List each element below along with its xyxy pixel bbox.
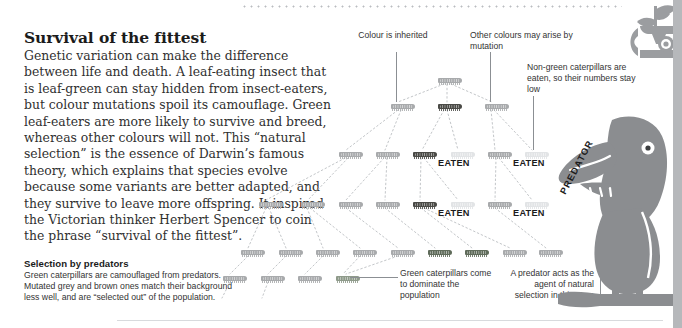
annotation-green-dominate: Green caterpillars come to dominate the … (400, 268, 492, 300)
caterpillar-g3-2 (375, 152, 401, 159)
bottom-divider (117, 320, 663, 321)
caterpillar-g1-1 (437, 78, 463, 85)
caterpillar-g4-5 (412, 202, 438, 209)
leader-colour-inherited (396, 52, 397, 102)
caterpillar-g2-3 (484, 104, 510, 111)
caterpillar-g5-6 (427, 250, 453, 257)
caterpillar-g4-2 (300, 202, 326, 209)
eaten-label-3: EATEN (438, 208, 470, 218)
caterpillar-g5-2 (278, 250, 304, 257)
caterpillar-g5-4 (352, 250, 378, 257)
annotation-colour-inherited: Colour is inherited (358, 30, 428, 41)
caterpillar-g3-1 (338, 152, 364, 159)
caterpillar-g5-7 (464, 250, 490, 257)
caterpillar-g6-3 (297, 276, 323, 283)
leader-other-colours (490, 52, 491, 102)
eaten-label-2: EATEN (513, 158, 545, 168)
annotation-other-colours: Other colours may arise by mutation (470, 30, 580, 52)
caterpillar-g4-3 (338, 202, 364, 209)
caterpillar-g2-1 (390, 104, 416, 111)
eaten-label-1: EATEN (438, 158, 470, 168)
caterpillar-g5-5 (390, 250, 416, 257)
caterpillar-g5-3 (315, 250, 341, 257)
caterpillar-g6-1 (222, 276, 248, 283)
right-edge-bar (673, 0, 682, 328)
caterpillar-g3-3 (412, 152, 438, 159)
caterpillar-g2-2 (437, 104, 463, 111)
caterpillar-g6-2 (260, 276, 286, 283)
eaten-label-4: EATEN (513, 208, 545, 218)
annotation-non-green: Non-green caterpillars are eaten, so the… (527, 62, 647, 94)
caterpillar-g5-8 (502, 250, 528, 257)
caterpillar-g5-1 (240, 250, 266, 257)
predator-bird-illustration (556, 108, 682, 308)
caterpillar-g4-4 (375, 202, 401, 209)
caterpillar-g4-7 (487, 202, 513, 209)
caterpillar-g4-1 (258, 202, 284, 209)
right-edge-notch (663, 308, 673, 328)
leader-non-green (533, 96, 534, 150)
infographic-page: Survival of the fittest Genetic variatio… (0, 0, 682, 328)
caterpillar-g3-5 (487, 152, 513, 159)
leader-green-dominate (350, 277, 398, 278)
